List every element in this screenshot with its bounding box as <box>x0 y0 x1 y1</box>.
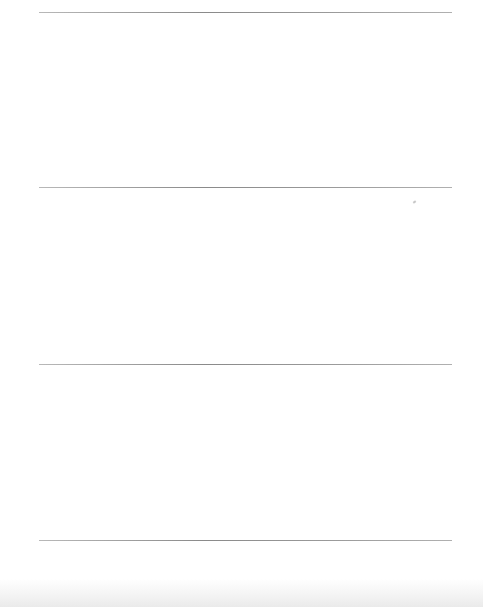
scan-edge-noise <box>0 579 483 607</box>
ruled-line-3 <box>39 364 452 365</box>
stray-mark <box>413 200 417 203</box>
ruled-line-2 <box>39 187 452 188</box>
ruled-line-1 <box>39 12 452 13</box>
ruled-line-4 <box>39 540 452 541</box>
